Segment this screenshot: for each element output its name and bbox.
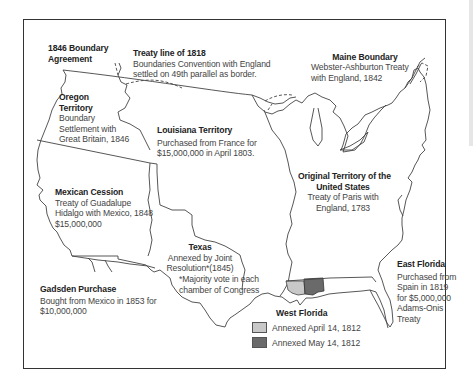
label-east-florida-line-3: for $5,000,000 <box>397 293 456 304</box>
label-maine-line-1: Webster-Ashburton Treaty <box>311 62 409 73</box>
label-gadsden-line-1: Bought from Mexico in 1853 for <box>40 296 156 307</box>
label-original-line-2: England, 1783 <box>298 203 388 214</box>
gadsden-line <box>72 256 155 268</box>
maine-boundary-dashed <box>417 63 428 82</box>
label-oregon-title-1: Oregon <box>59 92 129 103</box>
label-louisiana-line-2: $15,000,000 in April 1803. <box>157 148 257 159</box>
legend-west-florida: West Florida Annexed April 14, 1812 Anne… <box>252 308 361 350</box>
legend-item-may: Annexed May 14, 1812 <box>252 335 361 350</box>
label-mexican-cession-line-3: $15,000,000 <box>55 219 153 230</box>
label-maine-boundary: Maine Boundary <box>310 52 420 63</box>
label-texas-line-1: Annexed by Joint <box>164 253 236 264</box>
chesapeake <box>398 195 403 216</box>
legend-swatch-dark <box>252 337 267 348</box>
label-east-florida-line-2: Spain in 1819 <box>397 282 456 293</box>
great-lakes <box>252 93 386 152</box>
label-oregon-title-2: Territory <box>59 103 129 114</box>
label-treaty-1818-title: Treaty line of 1818 <box>133 48 271 59</box>
label-east-florida-line-1: Purchased from <box>397 272 456 283</box>
label-east-florida: East Florida Purchased from Spain in 181… <box>397 259 456 325</box>
label-original-line-1: Treaty of Paris with <box>298 192 388 203</box>
legend-item-april: Annexed April 14, 1812 <box>252 320 361 335</box>
label-mexican-cession: Mexican Cession Treaty of Guadalupe Hida… <box>55 187 153 229</box>
west-florida-may <box>304 278 324 295</box>
label-1846-boundary: 1846 Boundary Agreement <box>48 43 108 64</box>
maine-coast-2 <box>410 64 421 84</box>
label-oregon-line-1: Boundary <box>59 113 129 124</box>
label-texas-title: Texas <box>164 242 236 253</box>
label-texas-note-2: chamber of Congress <box>179 285 259 296</box>
label-east-florida-title: East Florida <box>397 259 456 270</box>
label-gadsden-title: Gadsden Purchase <box>40 284 156 295</box>
label-gadsden-purchase: Gadsden Purchase Bought from Mexico in 1… <box>40 284 156 317</box>
legend-swatch-light <box>252 322 267 333</box>
label-original-title-2: United States <box>298 182 388 193</box>
label-original-title-1: Original Territory of the <box>298 171 388 182</box>
label-louisiana-territory: Louisiana Territory Purchased from Franc… <box>157 125 257 159</box>
label-east-florida-line-4: Adams-Onis <box>397 303 456 314</box>
label-texas: Texas Annexed by Joint Resolution*(1845) <box>164 242 236 274</box>
west-florida-april <box>286 281 305 295</box>
label-1846-boundary-title-1: 1846 Boundary <box>48 43 108 54</box>
label-mexican-cession-line-1: Treaty of Guadalupe <box>55 198 153 209</box>
label-treaty-1818: Treaty line of 1818 Boundaries Conventio… <box>133 48 271 80</box>
label-1846-boundary-title-2: Agreement <box>48 54 108 65</box>
label-mexican-cession-line-2: Hidalgo with Mexico, 1848 <box>55 208 153 219</box>
label-oregon-territory: Oregon Territory Boundary Settlement wit… <box>59 92 129 145</box>
label-texas-line-2: Resolution*(1845) <box>164 263 236 274</box>
label-maine-line-2: with England, 1842 <box>311 73 409 84</box>
label-maine-title: Maine Boundary <box>310 52 420 63</box>
label-treaty-1818-line-2: settled on 49th parallel as border. <box>133 69 271 80</box>
label-mexican-cession-title: Mexican Cession <box>55 187 153 198</box>
label-louisiana-line-1: Purchased from France for <box>157 138 257 149</box>
label-maine-body: Webster-Ashburton Treaty with England, 1… <box>311 62 409 83</box>
label-oregon-line-2: Settlement with <box>59 124 129 135</box>
label-gadsden-line-2: $10,000,000 <box>40 306 156 317</box>
label-texas-note: *Majority vote in each chamber of Congre… <box>179 274 259 295</box>
mississippi-river <box>264 110 296 296</box>
legend-label-april: Annexed April 14, 1812 <box>272 323 361 333</box>
label-east-florida-line-5: Treaty <box>397 314 456 325</box>
lake-michigan <box>310 108 322 146</box>
label-louisiana-title: Louisiana Territory <box>157 125 257 136</box>
label-treaty-1818-line-1: Boundaries Convention with England <box>133 59 271 70</box>
label-texas-note-1: *Majority vote in each <box>179 274 259 285</box>
legend-label-may: Annexed May 14, 1812 <box>272 338 360 348</box>
label-original-territory: Original Territory of the United States … <box>298 171 388 213</box>
legend-title: West Florida <box>276 308 361 318</box>
label-oregon-line-3: Great Britain, 1846 <box>59 134 129 145</box>
